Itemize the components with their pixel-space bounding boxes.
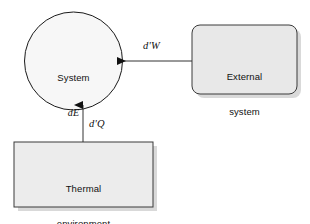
thermal-environment-box [14,142,153,207]
diagram-canvas [0,0,310,224]
system-circle [25,12,123,110]
thermodynamics-diagram: System dE External system Thermal enviro… [0,0,310,224]
external-system-box [192,25,297,94]
